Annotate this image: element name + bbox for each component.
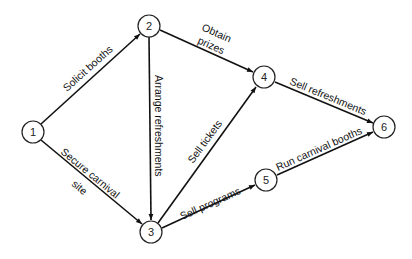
- node-6-label: 6: [381, 121, 387, 133]
- node-4-label: 4: [261, 71, 267, 83]
- edge-label-secure-carnival-site-line2: site: [70, 177, 90, 197]
- node-5-label: 5: [263, 174, 269, 186]
- node-2-label: 2: [146, 20, 152, 32]
- edge-label-arrange-refreshments: Arrange refreshments: [153, 75, 165, 177]
- edge-label-sell-refreshments: Sell refreshments: [288, 75, 368, 117]
- node-3-label: 3: [148, 226, 154, 238]
- edge-1-2: [41, 34, 140, 124]
- edge-label-run-carnival-booths: Run carnival booths: [274, 124, 364, 173]
- node-1: 1: [22, 121, 44, 143]
- edge-label-sell-programs: Sell programs: [178, 185, 242, 222]
- activity-network-diagram: Solicit booths Secure carnival site Arra…: [0, 0, 412, 259]
- node-5: 5: [255, 169, 277, 191]
- node-3: 3: [140, 221, 162, 243]
- node-4: 4: [253, 66, 275, 88]
- edge-label-solicit-booths: Solicit booths: [60, 43, 114, 94]
- node-1-label: 1: [30, 126, 36, 138]
- edge-1-3: [41, 140, 142, 224]
- edge-2-3: [149, 37, 151, 220]
- node-6: 6: [373, 116, 395, 138]
- node-2: 2: [138, 15, 160, 37]
- edge-label-secure-carnival-site-line1: Secure carnival: [59, 145, 122, 200]
